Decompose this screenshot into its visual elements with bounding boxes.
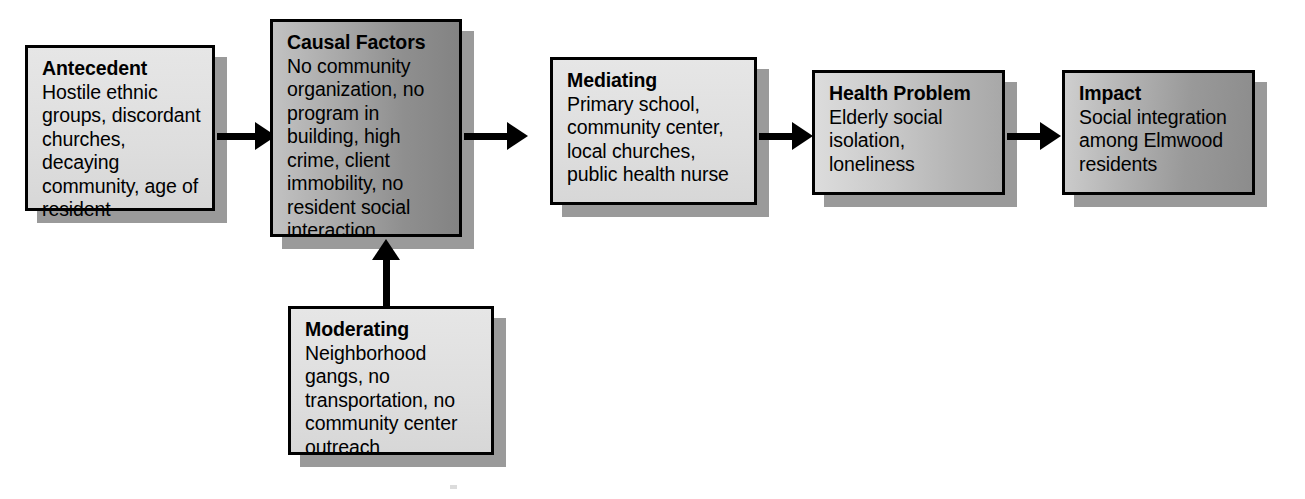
node-antecedent-body: Hostile ethnic groups, discordant church… [42, 81, 202, 222]
node-impact: Impact Social integration among Elmwood … [1062, 70, 1255, 195]
arrow-mediating-to-health-line [759, 133, 794, 140]
node-mediating-title: Mediating [567, 69, 744, 93]
node-causal-factors: Causal Factors No community organization… [270, 19, 462, 237]
arrow-causal-to-mediating-head [507, 122, 528, 150]
flow-diagram: Antecedent Hostile ethnic groups, discor… [0, 0, 1305, 499]
node-mediating-body: Primary school, community center, local … [567, 93, 744, 187]
node-mediating: Mediating Primary school, community cent… [550, 57, 757, 205]
arrow-antecedent-to-causal-line [217, 133, 257, 140]
node-moderating-title: Moderating [305, 318, 481, 342]
node-impact-body: Social integration among Elmwood residen… [1079, 106, 1242, 177]
scan-artifact-speck [450, 485, 457, 489]
arrow-moderating-to-causal-line [383, 258, 390, 308]
node-health-problem: Health Problem Elderly social isolation,… [812, 70, 1005, 195]
node-antecedent-title: Antecedent [42, 57, 202, 81]
node-impact-title: Impact [1079, 82, 1242, 106]
arrow-moderating-to-causal-head [372, 239, 400, 260]
arrow-causal-to-mediating-line [464, 133, 509, 140]
node-health-problem-body: Elderly social isolation, loneliness [829, 106, 992, 177]
node-causal-factors-body: No community organization, no program in… [287, 55, 449, 243]
arrow-health-to-impact-line [1007, 133, 1042, 140]
node-health-problem-title: Health Problem [829, 82, 992, 106]
arrow-health-to-impact-head [1040, 122, 1061, 150]
node-moderating: Moderating Neighborhood gangs, no transp… [288, 306, 494, 455]
node-causal-factors-title: Causal Factors [287, 31, 449, 55]
node-moderating-body: Neighborhood gangs, no transportation, n… [305, 342, 481, 460]
node-antecedent: Antecedent Hostile ethnic groups, discor… [25, 45, 215, 211]
arrow-mediating-to-health-head [792, 122, 813, 150]
